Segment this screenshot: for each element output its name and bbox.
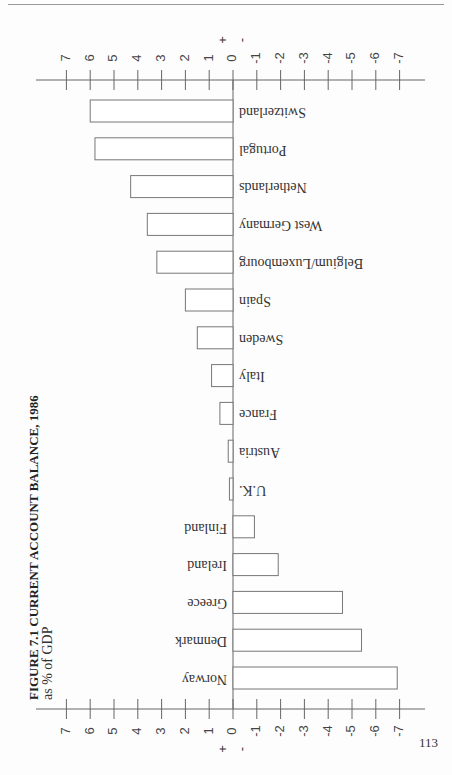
bottom-plus-sign: + [215, 745, 230, 753]
category-label: Norway [182, 672, 227, 687]
bottom-tick-label: 1 [201, 727, 216, 734]
category-label: Spain [239, 294, 271, 309]
top-tick-label: 0 [224, 54, 239, 61]
bar [228, 440, 233, 462]
category-label: West Germany [239, 218, 322, 233]
bottom-tick-label: -2 [272, 725, 287, 737]
bottom-tick-label: -5 [343, 725, 358, 737]
bottom-tick-label: 5 [105, 727, 120, 734]
top-tick-label: 3 [153, 54, 168, 61]
category-label: France [239, 407, 277, 422]
bar [131, 176, 233, 198]
top-tick-label: 6 [82, 54, 97, 61]
category-label: Ireland [187, 558, 227, 573]
bottom-tick-label: 0 [224, 727, 239, 734]
top-tick-label: -5 [343, 52, 358, 64]
bar [197, 327, 233, 349]
top-tick-label: -1 [248, 52, 263, 64]
category-label: Italy [239, 369, 265, 384]
top-tick-label: 1 [201, 54, 216, 61]
bottom-tick-label: -6 [367, 725, 382, 737]
category-label: Portugal [239, 143, 287, 158]
top-tick-label: -4 [320, 52, 335, 64]
top-plus-sign: + [215, 36, 230, 44]
bar [95, 138, 233, 160]
bottom-tick-label: -7 [391, 725, 406, 737]
bottom-tick-label: 7 [58, 727, 73, 734]
bottom-tick-label: 6 [82, 727, 97, 734]
bar [233, 554, 278, 576]
bottom-minus-sign: - [234, 747, 249, 751]
bar [212, 365, 233, 387]
category-label: Finland [184, 521, 227, 536]
bottom-tick-label: -1 [248, 725, 263, 737]
top-tick-label: -7 [391, 52, 406, 64]
bar [229, 478, 233, 500]
bottom-tick-label: 3 [153, 727, 168, 734]
category-label: Austria [238, 445, 280, 460]
page-number: 113 [419, 735, 438, 751]
top-tick-label: -2 [272, 52, 287, 64]
bottom-tick-label: -3 [296, 725, 311, 737]
top-tick-label: -6 [367, 52, 382, 64]
category-label: U.K. [239, 483, 266, 498]
bottom-tick-label: 4 [129, 727, 144, 734]
bar [90, 100, 233, 122]
bar [147, 213, 233, 235]
category-label: Switzerland [239, 105, 306, 120]
top-tick-label: 4 [129, 54, 144, 61]
bottom-tick-label: 2 [177, 727, 192, 734]
category-label: Netherlands [239, 180, 307, 195]
category-label: Denmark [175, 634, 227, 649]
bar [157, 251, 233, 273]
figure-subtitle: as % of GDP [40, 627, 56, 701]
bar [233, 667, 397, 689]
top-tick-label: 2 [177, 54, 192, 61]
top-tick-label: -3 [296, 52, 311, 64]
category-label: Greece [187, 596, 227, 611]
bottom-tick-label: -4 [320, 725, 335, 737]
bar [220, 402, 233, 424]
bar-chart: 76543210-1-2-3-4-5-6-7+-76543210-1-2-3-4… [0, 0, 452, 775]
top-tick-label: 7 [58, 54, 73, 61]
bar [185, 289, 233, 311]
bar [233, 516, 254, 538]
top-tick-label: 5 [105, 54, 120, 61]
category-label: Belgium/Luxembourg [239, 256, 363, 271]
bar [233, 629, 362, 651]
top-minus-sign: - [234, 38, 249, 42]
bar [233, 591, 342, 613]
category-label: Sweden [239, 332, 283, 347]
